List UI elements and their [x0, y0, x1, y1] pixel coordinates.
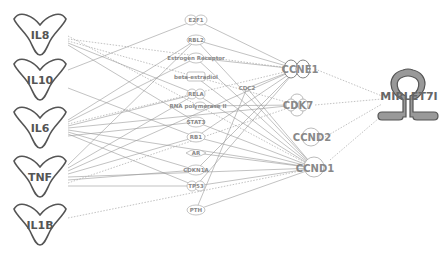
node-label: TNF — [28, 171, 52, 184]
node-label: IL10 — [27, 74, 54, 87]
node-label: CCNE1 — [282, 64, 319, 75]
node-pth[interactable]: PTH — [187, 205, 205, 215]
node-label: AR — [192, 150, 201, 156]
node-label: TP53 — [188, 183, 204, 189]
node-label: STAT3 — [187, 119, 206, 125]
node-il8[interactable]: IL8 — [14, 14, 66, 55]
node-stat3[interactable]: STAT3 — [187, 117, 206, 127]
node-label: Estrogen Receptor — [167, 55, 225, 62]
node-tp53[interactable]: TP53 — [187, 181, 205, 191]
node-beta-estradiol[interactable]: beta-estradiol — [174, 72, 218, 81]
node-il1b[interactable]: IL1B — [14, 204, 66, 245]
node-ccne1[interactable]: CCNE1 — [282, 60, 319, 78]
node-label: IL1B — [26, 219, 53, 232]
node-rbl2[interactable]: RBL2 — [187, 35, 205, 45]
node-label: CCND1 — [296, 163, 334, 174]
node-cdc2[interactable]: CDC2 — [239, 85, 256, 91]
node-cdkn1a[interactable]: CDKN1A — [183, 165, 209, 175]
node-label: MIRLET7I — [380, 90, 437, 103]
node-rb1[interactable]: RB1 — [187, 132, 205, 142]
node-label: RELA — [188, 91, 204, 97]
node-label: RBL2 — [188, 37, 204, 43]
node-label: beta-estradiol — [174, 74, 218, 80]
edges — [68, 20, 385, 218]
node-label: CDC2 — [239, 85, 256, 91]
node-rela[interactable]: RELA — [187, 89, 205, 99]
node-il10[interactable]: IL10 — [14, 59, 66, 100]
node-il6[interactable]: IL6 — [14, 107, 66, 148]
node-tnf[interactable]: TNF — [14, 156, 66, 197]
node-label: PTH — [190, 207, 203, 213]
node-rna-polymerase-ii[interactable]: RNA polymerase II — [169, 102, 226, 110]
node-estrogen-receptor[interactable]: Estrogen Receptor — [167, 53, 225, 63]
node-label: RNA polymerase II — [169, 103, 226, 110]
node-label: IL6 — [31, 122, 50, 135]
node-label: E2F1 — [188, 17, 203, 23]
node-label: CCND2 — [293, 132, 331, 143]
node-cdk7[interactable]: CDK7 — [283, 94, 313, 116]
node-label: CDKN1A — [183, 167, 209, 173]
pathway-diagram: IL8 IL10 IL6 TNF IL1B E2F1 RBL2 Estrogen… — [0, 0, 447, 256]
node-e2f1[interactable]: E2F1 — [185, 15, 207, 25]
node-mirlet7i[interactable]: MIRLET7I — [378, 69, 438, 120]
node-ccnd2[interactable]: CCND2 — [293, 128, 331, 146]
node-label: IL8 — [31, 29, 50, 42]
node-label: CDK7 — [283, 100, 313, 111]
node-label: RB1 — [190, 134, 202, 140]
